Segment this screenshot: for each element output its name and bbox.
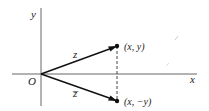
- faint-mark: [175, 36, 178, 40]
- vector-z-conjugate: [41, 74, 115, 100]
- vector-z-conjugate-label: z̅: [72, 87, 79, 99]
- origin-label: O: [28, 75, 36, 87]
- y-axis-label: y: [30, 8, 36, 20]
- x-axis-label: x: [189, 73, 195, 85]
- vector-z: [41, 47, 115, 74]
- vector-z-label: z: [72, 48, 78, 60]
- point-x-neg-y: [115, 99, 119, 103]
- point-x-neg-y-label: (x, −y): [124, 96, 152, 108]
- point-x-y: [115, 44, 119, 48]
- complex-plane-diagram: y x O z z̅ (x, y) (x, −y): [0, 0, 209, 111]
- faint-mark: [166, 63, 169, 66]
- point-x-y-label: (x, y): [124, 41, 145, 53]
